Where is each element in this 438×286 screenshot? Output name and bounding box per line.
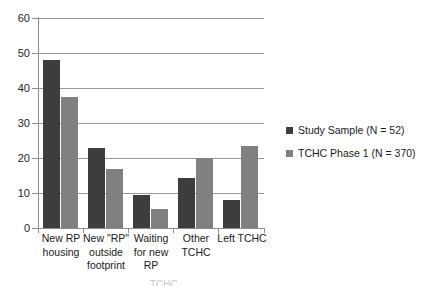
- x-category-line: for new: [127, 246, 175, 260]
- x-category-line: New RP: [37, 232, 85, 246]
- x-category-label: Left TCHC: [215, 232, 269, 246]
- x-category-line: outside: [82, 246, 130, 260]
- y-tick-label: 10: [4, 188, 30, 199]
- bar-series-0: [88, 148, 105, 229]
- bar-series-1: [241, 146, 258, 228]
- x-category-line: RP: [127, 259, 175, 273]
- legend-label: TCHC Phase 1 (N = 370): [298, 147, 416, 160]
- legend-item[interactable]: Study Sample (N = 52): [286, 124, 436, 137]
- x-category-label: Other TCHC: [172, 232, 220, 259]
- bar-series-1: [106, 169, 123, 229]
- bar-series-1: [151, 209, 168, 228]
- bar-series-0: [43, 60, 60, 228]
- legend-swatch-icon: [286, 150, 293, 157]
- y-tick-label: 20: [4, 153, 30, 164]
- x-category-label: New "RP" outside footprint: [82, 232, 130, 273]
- x-category-label: New RP housing: [37, 232, 85, 259]
- bar-group: [83, 18, 128, 228]
- y-tick-label: 30: [4, 118, 30, 129]
- x-axis-line: [38, 228, 265, 229]
- y-tick-label: 40: [4, 83, 30, 94]
- y-tick-label: 60: [4, 13, 30, 24]
- x-category-line: Other: [172, 232, 220, 246]
- x-axis-category-labels: New RP housing New "RP" outside footprin…: [38, 232, 266, 286]
- legend-label: Study Sample (N = 52): [298, 124, 405, 137]
- bar-series-1: [196, 158, 213, 228]
- bar-groups: [38, 18, 264, 228]
- x-category-line: Left TCHC: [215, 232, 269, 246]
- x-category-line: New "RP": [82, 232, 130, 246]
- bar-group: [128, 18, 173, 228]
- x-category-line: Waiting: [127, 232, 175, 246]
- bar-group: [173, 18, 218, 228]
- x-category-line: TCHC: [172, 246, 220, 260]
- legend-item[interactable]: TCHC Phase 1 (N = 370): [286, 147, 436, 160]
- x-category-label: Waiting for new RP: [127, 232, 175, 273]
- bar-series-1: [61, 97, 78, 228]
- bar-group: [218, 18, 263, 228]
- cut-off-caption: TCHC: [150, 279, 438, 286]
- y-tick-label: 0: [4, 223, 30, 234]
- bar-series-0: [133, 195, 150, 228]
- legend: Study Sample (N = 52) TCHC Phase 1 (N = …: [286, 124, 436, 170]
- legend-swatch-icon: [286, 127, 293, 134]
- y-tick-label: 50: [4, 48, 30, 59]
- bar-series-0: [223, 200, 240, 228]
- x-category-line: housing: [37, 246, 85, 260]
- x-category-line: footprint: [82, 259, 130, 273]
- bar-group: [38, 18, 83, 228]
- bar-series-0: [178, 178, 195, 228]
- bar-chart: 60 50 40 30 20 10 0: [0, 0, 438, 286]
- y-axis-labels: 60 50 40 30 20 10 0: [0, 0, 30, 286]
